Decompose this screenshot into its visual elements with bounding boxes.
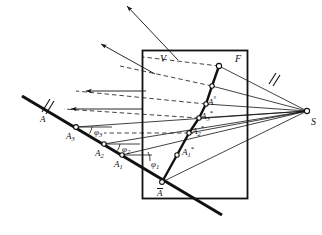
label-source-S: S: [311, 117, 316, 127]
node-A3: [74, 125, 79, 130]
label-object-A: A: [40, 115, 46, 124]
diagram-canvas: [0, 0, 322, 235]
arc-phi3: [90, 127, 93, 134]
label-image-A2-star: A2*: [192, 127, 204, 136]
label-point-A2: A2: [95, 149, 104, 158]
node-A-bar: [160, 180, 165, 185]
node-A1-star: [175, 153, 179, 157]
label-angle-phi1: φ1: [151, 160, 159, 169]
ray-S-to-upper-vertex: [212, 86, 307, 111]
dash-from-A3star: [64, 109, 199, 118]
label-angle-phi3-sub: 3: [99, 131, 102, 138]
upper-chain-rays: [212, 86, 307, 111]
dash-from-uppervertex: [120, 66, 212, 86]
label-image-A1-star: A1*: [182, 148, 194, 157]
label-point-A3-sub: 3: [72, 135, 75, 142]
label-A-bar: A: [157, 188, 163, 198]
node-A2: [102, 142, 106, 146]
label-angle-phi1-sub: 1: [156, 163, 159, 170]
incident-arrow-1: [127, 6, 178, 60]
label-image-A2-star-letter: A: [192, 126, 198, 136]
label-image-A1-star-sup: *: [191, 145, 195, 153]
label-point-A2-letter: A: [95, 148, 101, 158]
label-image-A2-star-sup: *: [201, 124, 205, 132]
label-point-A1-sub: 1: [120, 163, 123, 170]
label-point-A1: A1: [114, 160, 123, 169]
geometric-diagram-figure: V F S A A A3 A2 A1 A° A3* A2* A1* φ3 φ2 …: [0, 0, 322, 235]
label-image-A-star-letter: A: [208, 97, 214, 107]
label-image-A3-star: A3*: [201, 112, 213, 121]
dash-from-Astar: [76, 91, 206, 104]
source-ray-bundle: [76, 66, 307, 182]
label-angle-phi2: φ2: [122, 145, 130, 154]
dash-from-chaintop: [143, 57, 219, 66]
node-upper-vertex: [210, 84, 214, 88]
ray-S-to-chaintop: [219, 66, 307, 111]
label-A-bar-text: A: [157, 188, 163, 198]
image-chain-polyline: [162, 66, 219, 182]
label-image-A3-star-letter: A: [201, 111, 207, 121]
node-markers: [74, 63, 310, 184]
label-plane-V: V: [160, 54, 166, 64]
node-S: [304, 108, 309, 113]
label-image-A3-star-sup: *: [210, 109, 214, 117]
label-plane-F: F: [235, 54, 241, 64]
label-image-A1-star-letter: A: [182, 147, 188, 157]
ray-S-to-Astar: [206, 104, 307, 111]
incident-arrow-2: [101, 44, 155, 74]
label-point-A2-sub: 2: [101, 152, 104, 159]
label-point-A3-letter: A: [66, 131, 72, 141]
label-image-A-star: A°: [208, 98, 216, 107]
node-chain-top: [216, 63, 221, 68]
label-point-A3: A3: [66, 132, 75, 141]
arc-phi2: [118, 144, 121, 151]
node-A2-star: [187, 131, 191, 135]
label-image-A-star-sup: °: [214, 95, 217, 103]
label-point-A1-letter: A: [114, 159, 120, 169]
arc-phi1: [148, 152, 150, 161]
label-angle-phi3: φ3: [94, 128, 102, 137]
label-angle-phi2-sub: 2: [127, 148, 130, 155]
